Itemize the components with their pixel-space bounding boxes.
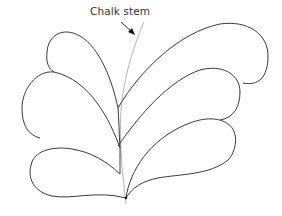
base-point [125,197,127,199]
feather-diagram: Chalk stem [0,0,282,216]
petal-left-middle [22,72,120,148]
feather-drawing [0,0,282,216]
petal-right-top [118,23,268,108]
petal-right-middle [118,68,240,146]
chalk-stem-label: Chalk stem [90,5,150,17]
petal-right-bottom [126,119,236,198]
petal-left-bottom [30,148,126,198]
petal-left-top [47,32,118,108]
